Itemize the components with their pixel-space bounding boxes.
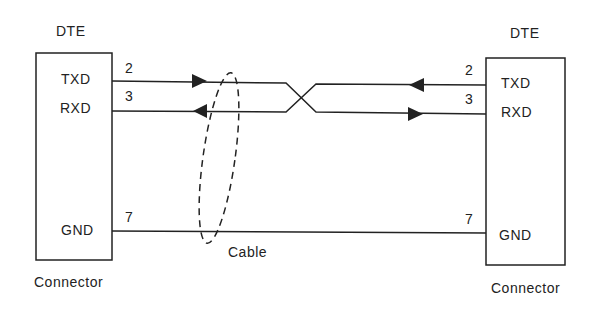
right-pin-7: 7 xyxy=(465,211,473,227)
right-connector-caption: Connector xyxy=(491,280,560,296)
arrow-left-icon xyxy=(409,78,424,92)
left-pin-7: 7 xyxy=(125,209,133,225)
arrow-left-icon xyxy=(193,104,207,118)
left-txd-label: TXD xyxy=(61,71,91,87)
wire-gnd xyxy=(112,231,486,233)
left-gnd-label: GND xyxy=(61,222,94,238)
arrow-right-icon xyxy=(408,107,423,121)
cable-outline xyxy=(191,71,247,246)
right-pin-2: 2 xyxy=(465,62,473,78)
right-txd-label: TXD xyxy=(501,75,531,91)
right-dte-label: DTE xyxy=(510,25,540,41)
wire-left-txd-to-right-rxd xyxy=(112,81,486,114)
null-modem-wiring-diagram xyxy=(0,0,602,313)
left-rxd-label: RXD xyxy=(60,100,91,116)
wire-right-txd-to-left-rxd xyxy=(112,84,486,112)
left-pin-3: 3 xyxy=(125,88,133,104)
left-dte-label: DTE xyxy=(56,23,86,39)
cable-label: Cable xyxy=(228,244,267,260)
right-rxd-label: RXD xyxy=(501,104,532,120)
right-gnd-label: GND xyxy=(499,227,532,243)
left-pin-2: 2 xyxy=(125,60,133,76)
arrow-right-icon xyxy=(192,74,207,88)
right-pin-3: 3 xyxy=(465,91,473,107)
left-connector-caption: Connector xyxy=(34,274,103,290)
